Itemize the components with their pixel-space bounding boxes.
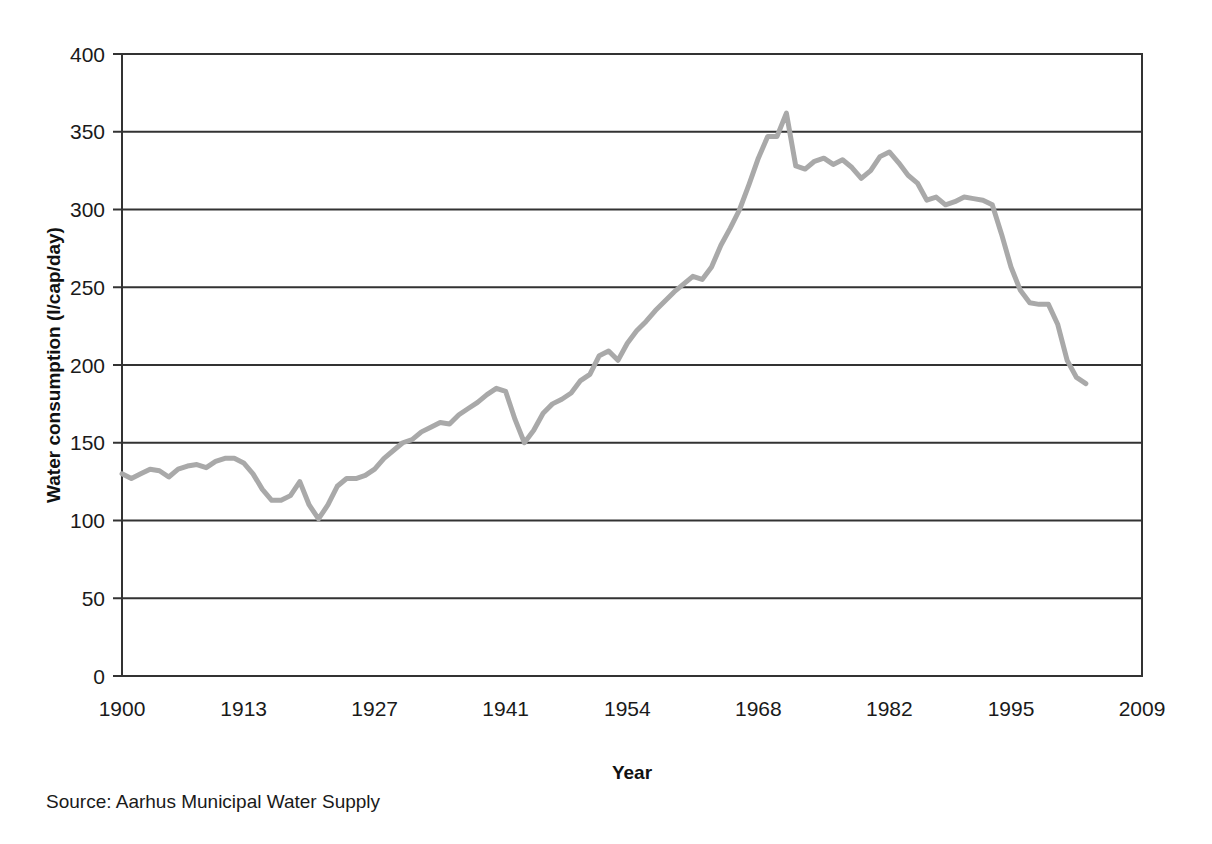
y-axis-tick-label: 50 <box>82 587 105 610</box>
water-consumption-chart-figure: 050100150200250300350400 190019131927194… <box>0 0 1212 844</box>
x-axis-tick-label: 1941 <box>482 697 529 720</box>
y-axis-tick-labels: 050100150200250300350400 <box>70 43 105 688</box>
y-axis-tick-label: 350 <box>70 120 105 143</box>
source-note: Source: Aarhus Municipal Water Supply <box>46 791 381 812</box>
y-axis-tick-label: 250 <box>70 276 105 299</box>
x-axis-title: Year <box>612 762 653 783</box>
x-axis-tick-label: 1954 <box>604 697 651 720</box>
y-axis-title: Water consumption (l/cap/day) <box>43 227 64 503</box>
x-axis-tick-label: 1927 <box>351 697 398 720</box>
y-axis-tick-label: 200 <box>70 354 105 377</box>
y-axis-tick-label: 100 <box>70 509 105 532</box>
x-axis-tick-label: 1913 <box>220 697 267 720</box>
y-axis-tick-label: 400 <box>70 43 105 66</box>
y-axis-tick-label: 0 <box>93 665 105 688</box>
x-axis-tick-labels: 190019131927194119541968198219952009 <box>99 697 1166 720</box>
y-axis-ticks <box>113 54 122 676</box>
x-axis-tick-label: 1968 <box>735 697 782 720</box>
x-axis-tick-label: 1900 <box>99 697 146 720</box>
y-axis-tick-label: 300 <box>70 198 105 221</box>
x-axis-tick-label: 1982 <box>866 697 913 720</box>
x-axis-tick-label: 1995 <box>988 697 1035 720</box>
line-chart: 050100150200250300350400 190019131927194… <box>0 0 1212 844</box>
y-axis-tick-label: 150 <box>70 431 105 454</box>
x-axis-tick-label: 2009 <box>1119 697 1166 720</box>
